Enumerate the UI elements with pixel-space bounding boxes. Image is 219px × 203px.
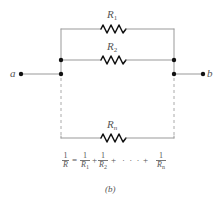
- junction-dots: [19, 58, 205, 76]
- formula-term-n: 1 Rn: [156, 152, 166, 170]
- plus-sign: +: [111, 155, 116, 165]
- branch-r2: [61, 56, 174, 64]
- plus-sign: +: [143, 155, 148, 165]
- resistor-r2-icon: [101, 56, 126, 64]
- branch-rn: [61, 134, 174, 142]
- formula-term-1: 1 R1: [80, 152, 90, 170]
- circuit-wiring: [0, 0, 219, 203]
- label-rn: Rn: [107, 119, 117, 132]
- branch-r1: [61, 25, 174, 74]
- plus-sign: +: [92, 155, 97, 165]
- resistor-r1-icon: [101, 25, 126, 33]
- terminal-a-dot: [19, 72, 23, 76]
- parallel-circuit-diagram: R1 R2 Rn a b 1 R = 1 R1 + 1 R2 + · · · +…: [0, 0, 219, 203]
- figure-caption: (b): [105, 184, 116, 194]
- terminal-b-dot: [201, 72, 205, 76]
- dashed-continuation: [61, 78, 174, 136]
- label-r2: R2: [107, 41, 117, 54]
- label-r1: R1: [107, 9, 117, 22]
- ellipsis: · · ·: [122, 155, 141, 165]
- terminal-a-label: a: [10, 68, 16, 79]
- formula-term-2: 1 R2: [98, 152, 108, 170]
- terminal-b-label: b: [207, 68, 213, 79]
- equals-sign: =: [72, 155, 77, 165]
- formula-lhs: 1 R: [62, 152, 69, 169]
- resistor-rn-icon: [101, 134, 126, 142]
